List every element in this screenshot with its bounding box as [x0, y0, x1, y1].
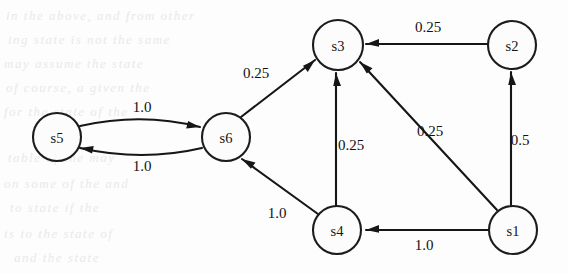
- arrowhead-s4-to-s3: [333, 73, 341, 86]
- edge-weight-label-s1-s3: 0.25: [417, 123, 443, 139]
- state-node-s4[interactable]: s4: [313, 206, 361, 254]
- edge-weight-label-s5-s6: 1.0: [133, 99, 152, 115]
- diagram-canvas: in the above, and from othering state is…: [0, 0, 568, 274]
- state-node-label-s1: s1: [507, 223, 520, 239]
- state-node-label-s2: s2: [506, 38, 519, 54]
- arrowhead-s6-to-s5: [80, 146, 94, 154]
- state-node-s1[interactable]: s1: [489, 206, 537, 254]
- edge-weight-label-s1-s2: 0.5: [511, 132, 530, 148]
- arrowhead-s6-to-s3: [303, 60, 315, 72]
- edge-weight-label-s4-s3: 0.25: [338, 137, 364, 153]
- edge-weight-label-s2-s3: 0.25: [415, 19, 441, 35]
- state-node-label-s3: s3: [332, 38, 345, 54]
- state-node-label-s4: s4: [331, 223, 345, 239]
- state-transition-graph: s1s2s3s4s5s6 0.250.50.251.00.251.00.251.…: [0, 0, 568, 274]
- state-node-s6[interactable]: s6: [202, 113, 250, 161]
- state-node-label-s5: s5: [51, 130, 64, 146]
- arrowhead-s1-to-s3: [360, 62, 373, 73]
- arrowhead-s2-to-s3: [366, 39, 379, 47]
- edge-weight-label-s1-s4: 1.0: [415, 237, 434, 253]
- arrowhead-s1-to-s2: [508, 72, 516, 85]
- edge-weight-label-s6-s3: 0.25: [243, 65, 269, 81]
- edge-s6-to-s5: [80, 148, 202, 155]
- arrowhead-s1-to-s4: [366, 225, 379, 233]
- edge-weight-label-s6-s5: 1.0: [133, 158, 152, 174]
- state-node-s5[interactable]: s5: [33, 113, 81, 161]
- edge-s5-to-s6: [80, 119, 200, 127]
- edge-weight-label-s4-s6: 1.0: [268, 205, 287, 221]
- state-node-s3[interactable]: s3: [313, 20, 363, 70]
- edges-group: [80, 39, 516, 233]
- state-node-label-s6: s6: [220, 130, 233, 146]
- state-node-s2[interactable]: s2: [488, 21, 536, 69]
